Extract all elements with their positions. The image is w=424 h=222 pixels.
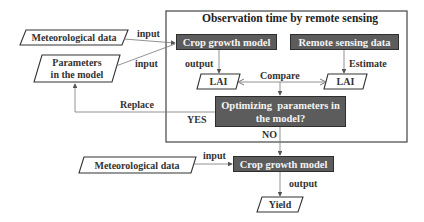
yield-label: Yield (259, 198, 301, 212)
crop-growth-model-bottom: Crop growth model (233, 156, 334, 172)
edge-label-output-top: output (185, 58, 213, 70)
edge-label-input-params: input (135, 58, 158, 70)
met-data-bottom-label: Meteorological data (81, 158, 193, 173)
optimize-line-1: Optimizing parameters in (221, 99, 340, 112)
parameters-label: Parameters in the model (36, 56, 118, 82)
edge-label-output-bottom: output (289, 178, 317, 190)
optimize-line-2: the model? (256, 112, 305, 125)
optimizing-decision-box: Optimizing parameters in the model? (215, 96, 346, 127)
lai-left-label: LAI (199, 75, 238, 89)
edge-label-estimate: Estimate (349, 58, 387, 70)
lai-right-label: LAI (326, 75, 365, 89)
edge-label-replace: Replace (120, 99, 154, 111)
crop-growth-model-top: Crop growth model (176, 34, 277, 50)
edge-label-no: NO (262, 129, 277, 141)
edge-label-compare: Compare (260, 70, 300, 82)
frame-title: Observation time by remote sensing (202, 12, 378, 24)
met-data-top-label: Meteorological data (22, 31, 126, 45)
edge-label-input-bottom: input (203, 150, 226, 162)
parameters-line-1: Parameters (52, 57, 101, 69)
remote-sensing-data-box: Remote sensing data (290, 34, 399, 50)
edge-label-input-met: input (137, 28, 160, 40)
edge-label-yes: YES (187, 114, 206, 126)
parameters-line-2: in the model (51, 69, 104, 81)
